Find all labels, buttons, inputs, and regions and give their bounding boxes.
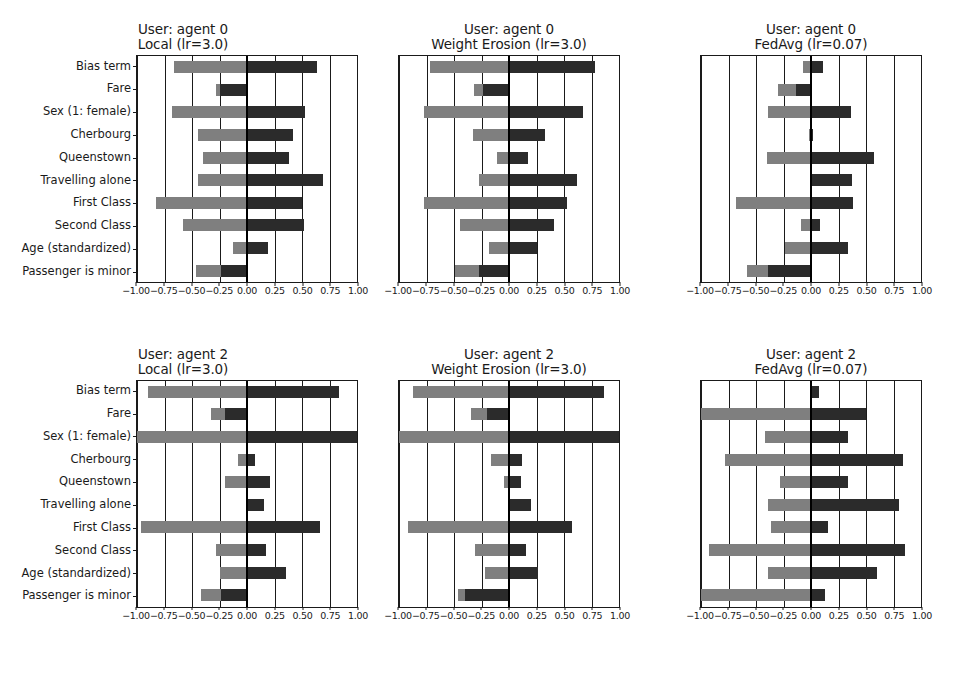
figure-root: User: agent 0Local (lr=3.0)Bias termFare… — [0, 0, 970, 681]
zero-line — [810, 381, 812, 607]
y-tick-label: Age (standardized) — [22, 568, 132, 580]
bar-positive — [465, 589, 509, 601]
x-tick-label: 0.00 — [237, 611, 257, 621]
panel-title: User: agent 0FedAvg (lr=0.07) — [755, 22, 868, 52]
x-tick-label: −1.00 — [384, 611, 412, 621]
axes-wrapper: −1.00−0.75−0.50−0.250.000.250.500.751.00 — [700, 380, 922, 624]
bar-positive — [509, 476, 521, 488]
bar-positive — [247, 106, 305, 118]
gridline — [921, 381, 922, 607]
bar-positive — [811, 521, 828, 533]
bar-negative — [156, 197, 247, 209]
axes-box — [136, 380, 358, 608]
x-axis-ticks: −1.00−0.75−0.50−0.250.000.250.500.751.00 — [136, 608, 358, 624]
x-tick-label: −1.00 — [686, 611, 714, 621]
bar-positive — [509, 174, 577, 186]
y-tick-label: Cherbourg — [70, 129, 131, 141]
axes-wrapper: −1.00−0.75−0.50−0.250.000.250.500.751.00 — [136, 55, 358, 299]
bar-negative — [216, 544, 247, 556]
x-tick-label: 1.00 — [610, 611, 630, 621]
x-axis-ticks: −1.00−0.75−0.50−0.250.000.250.500.751.00 — [700, 608, 922, 624]
bar-positive — [509, 386, 604, 398]
panel-title-user: User: agent 2 — [766, 346, 856, 362]
zero-line — [246, 56, 248, 282]
x-tick-label: 1.00 — [912, 286, 932, 296]
bar-negative — [460, 219, 510, 231]
plot-body: Bias termFareSex (1: female)CherbourgQue… — [700, 55, 922, 299]
bar-negative — [174, 61, 247, 73]
bar-negative — [198, 174, 248, 186]
axes-wrapper: −1.00−0.75−0.50−0.250.000.250.500.751.00 — [136, 380, 358, 624]
plot-body: Bias termFareSex (1: female)CherbourgQue… — [398, 380, 620, 624]
panel-agent2-fedavg: User: agent 2FedAvg (lr=0.07)Bias termFa… — [660, 347, 962, 672]
axes-box — [700, 55, 922, 283]
bar-positive — [811, 242, 848, 254]
bar-positive — [479, 265, 509, 277]
bar-negative — [709, 544, 811, 556]
bar-positive — [220, 84, 248, 96]
y-tick-label: Travelling alone — [41, 499, 131, 511]
bar-positive — [811, 567, 877, 579]
bar-negative — [725, 454, 811, 466]
panel-title-user: User: agent 2 — [138, 346, 228, 362]
bar-negative — [203, 152, 247, 164]
bar-positive — [247, 454, 255, 466]
panel-title-method: FedAvg (lr=0.07) — [755, 37, 868, 52]
x-axis-ticks: −1.00−0.75−0.50−0.250.000.250.500.751.00 — [398, 608, 620, 624]
plot-body: Bias termFareSex (1: female)CherbourgQue… — [8, 55, 358, 299]
x-tick-label: −0.75 — [150, 611, 178, 621]
bar-positive — [509, 242, 537, 254]
x-tick-label: 0.00 — [801, 611, 821, 621]
y-tick-label: Cherbourg — [70, 454, 131, 466]
bar-negative — [430, 61, 509, 73]
bar-positive — [811, 454, 903, 466]
x-tick-label: −0.50 — [178, 611, 206, 621]
x-tick-label: 0.75 — [320, 286, 340, 296]
bar-positive — [768, 265, 811, 277]
plot-body: Bias termFareSex (1: female)CherbourgQue… — [8, 380, 358, 624]
x-tick-label: −0.25 — [205, 611, 233, 621]
bar-positive — [247, 386, 339, 398]
x-tick-label: −0.25 — [467, 611, 495, 621]
x-tick-label: −1.00 — [122, 611, 150, 621]
bar-negative — [424, 106, 509, 118]
panel-title: User: agent 2Weight Erosion (lr=3.0) — [431, 347, 587, 377]
bar-negative — [473, 129, 509, 141]
bar-positive — [247, 544, 266, 556]
x-axis-ticks: −1.00−0.75−0.50−0.250.000.250.500.751.00 — [398, 283, 620, 299]
panel-title-user: User: agent 0 — [138, 21, 228, 37]
bar-negative — [198, 129, 248, 141]
x-tick-label: 0.25 — [265, 286, 285, 296]
y-tick-label: Queenstown — [59, 152, 131, 164]
x-tick-label: 0.25 — [829, 286, 849, 296]
panel-title-method: Local (lr=3.0) — [138, 37, 229, 52]
gridline — [921, 56, 922, 282]
x-tick-label: 0.75 — [884, 286, 904, 296]
bar-positive — [811, 408, 866, 420]
x-tick-label: 0.75 — [582, 611, 602, 621]
bar-positive — [811, 544, 905, 556]
bar-negative — [785, 242, 811, 254]
bar-positive — [247, 152, 289, 164]
x-tick-label: −0.50 — [178, 286, 206, 296]
x-tick-label: −0.50 — [742, 286, 770, 296]
x-tick-label: −0.75 — [412, 611, 440, 621]
panel-agent2-weighterosion: User: agent 2Weight Erosion (lr=3.0)Bias… — [358, 347, 660, 672]
x-tick-label: 0.50 — [293, 611, 313, 621]
bar-positive — [247, 219, 304, 231]
y-tick-label: Passenger is minor — [22, 266, 131, 278]
bar-negative — [479, 174, 509, 186]
panel-title-method: Weight Erosion (lr=3.0) — [431, 37, 587, 52]
zero-line — [508, 381, 510, 607]
y-tick-label: Passenger is minor — [22, 590, 131, 602]
bar-positive — [509, 544, 526, 556]
y-tick-label: Sex (1: female) — [43, 106, 131, 118]
x-tick-label: 1.00 — [912, 611, 932, 621]
bar-positive — [811, 431, 848, 443]
bar-positive — [225, 408, 247, 420]
x-tick-label: 0.25 — [527, 286, 547, 296]
x-tick-label: −0.25 — [769, 611, 797, 621]
bar-negative — [137, 431, 247, 443]
panel-title-user: User: agent 0 — [464, 21, 554, 37]
panel-agent2-local: User: agent 2Local (lr=3.0)Bias termFare… — [8, 347, 358, 672]
